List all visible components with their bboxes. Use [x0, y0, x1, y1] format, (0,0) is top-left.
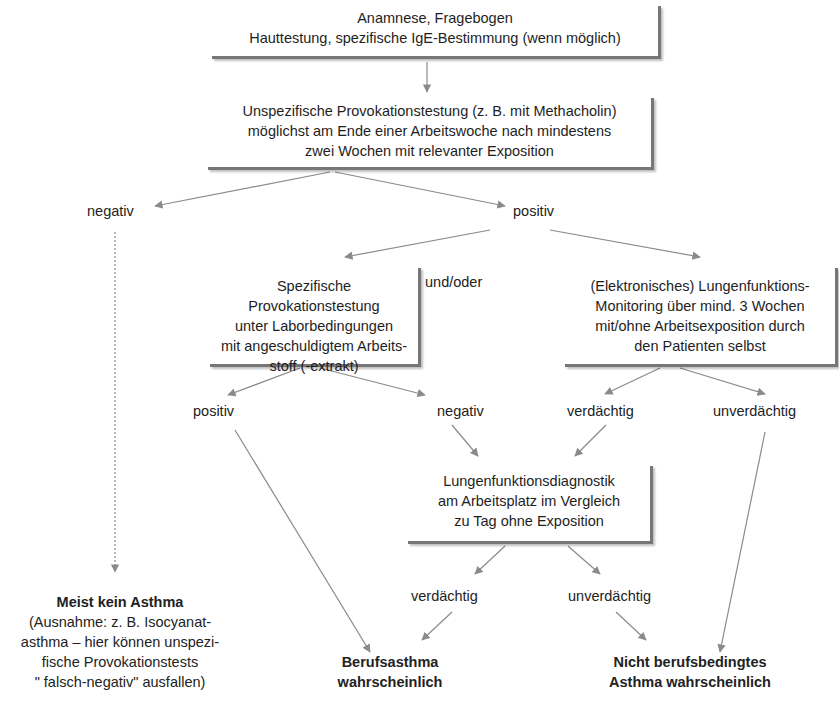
box-workplace-diagnostics: Lungenfunktionsdiagnostik am Arbeitsplat… [408, 466, 653, 544]
outcome-non-occupational-line2: Asthma wahrscheinlich [590, 672, 790, 692]
label-unverdaechtig-2: unverdächtig [568, 588, 651, 604]
outcome-no-asthma-line4: " falsch-negativ" ausfallen) [15, 672, 225, 692]
outcome-no-asthma: Meist kein Asthma (Ausnahme: z. B. Isocy… [15, 592, 225, 692]
label-verdaechtig-1: verdächtig [567, 403, 634, 419]
label-negativ-2: negativ [437, 403, 484, 419]
arrow-monitoring-verdaechtig [605, 368, 660, 394]
box-lung-monitoring: (Elektronisches) Lungenfunktions- Monito… [565, 268, 838, 367]
arrow-workplace-verdaechtig [475, 546, 505, 574]
box-monitoring-line1: (Elektronisches) Lungenfunktions- [565, 276, 835, 296]
box-nonspecific-line2: möglichst am Ende einer Arbeitswoche nac… [208, 121, 651, 141]
box-nonspecific-line3: zwei Wochen mit relevanter Exposition [208, 141, 651, 161]
box-specific-line4: stoff (-extrakt) [210, 356, 418, 376]
box-workplace-line1: Lungenfunktionsdiagnostik [408, 471, 650, 491]
box-specific-line3: mit angeschuldigtem Arbeits- [210, 336, 418, 356]
outcome-occupational-line1: Berufsasthma [325, 652, 455, 672]
outcome-non-occupational-line1: Nicht berufsbedingtes [590, 652, 790, 672]
label-verdaechtig-2: verdächtig [411, 588, 478, 604]
box-monitoring-line3: mit/ohne Arbeitsexposition durch [565, 316, 835, 336]
outcome-occupational-line2: wahrscheinlich [325, 672, 455, 692]
label-unverdaechtig-1: unverdächtig [713, 403, 796, 419]
outcome-no-asthma-line1: (Ausnahme: z. B. Isocyanat- [15, 612, 225, 632]
arrow-monitoring-unverdaechtig [680, 368, 765, 394]
outcome-no-asthma-line2: asthma – hier können unspezi- [15, 632, 225, 652]
box-nonspecific-line1: Unspezifische Provokationstestung (z. B.… [208, 101, 651, 121]
box-monitoring-line4: den Patienten selbst [565, 336, 835, 356]
arrow-to-positiv [335, 172, 505, 206]
box-workplace-line2: am Arbeitsplatz im Vergleich [408, 491, 650, 511]
arrow-to-monitoring [550, 230, 700, 257]
box-monitoring-line2: Monitoring über mind. 3 Wochen [565, 296, 835, 316]
box-history-line2: Hauttestung, spezifische IgE-Bestimmung … [212, 28, 658, 48]
arrow-negativ-to-workplace [452, 425, 478, 456]
label-positiv-1: positiv [513, 203, 554, 219]
arrow-workplace-unverdaechtig [568, 546, 600, 574]
outcome-no-asthma-line3: fische Provokationstests [15, 652, 225, 672]
arrow-to-specific [345, 230, 490, 257]
box-history-tests: Anamnese, Fragebogen Hauttestung, spezif… [212, 6, 661, 59]
label-positiv-2: positiv [193, 403, 234, 419]
arrow-positiv-to-occupational [235, 430, 370, 652]
arrow-verdaechtig-to-occupational [422, 612, 452, 640]
arrow-verdaechtig-to-workplace [575, 425, 606, 456]
box-nonspecific-provocation: Unspezifische Provokationstestung (z. B.… [208, 98, 654, 170]
box-history-line1: Anamnese, Fragebogen [212, 8, 658, 28]
box-workplace-line3: zu Tag ohne Exposition [408, 511, 650, 531]
arrow-unverdaechtig-to-non-occupational [720, 432, 765, 652]
outcome-occupational-asthma: Berufsasthma wahrscheinlich [325, 652, 455, 692]
arrow-to-negativ [155, 172, 330, 206]
outcome-no-asthma-title: Meist kein Asthma [15, 592, 225, 612]
box-specific-line1: Spezifische Provokationstestung [210, 276, 418, 316]
box-specific-provocation: Spezifische Provokationstestung unter La… [210, 268, 421, 367]
outcome-non-occupational-asthma: Nicht berufsbedingtes Asthma wahrscheinl… [590, 652, 790, 692]
box-specific-line2: unter Laborbedingungen [210, 316, 418, 336]
label-negativ-1: negativ [87, 203, 134, 219]
arrow-unverdaechtig-to-non-occupational [616, 612, 646, 640]
label-und-oder: und/oder [425, 274, 482, 290]
